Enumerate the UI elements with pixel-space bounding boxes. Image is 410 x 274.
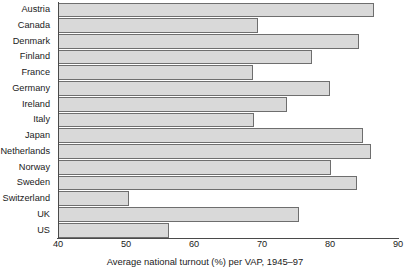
- category-label: Norway: [0, 159, 54, 175]
- bar-row: [59, 81, 398, 97]
- bar: [59, 81, 330, 96]
- category-label: Denmark: [0, 33, 54, 49]
- bar: [59, 50, 312, 65]
- bar-row: [59, 144, 398, 160]
- bar-row: [59, 175, 398, 191]
- bar-row: [59, 159, 398, 175]
- x-tick-label: 50: [121, 240, 131, 249]
- plot-area: [58, 2, 398, 238]
- bar-row: [59, 128, 398, 144]
- bar: [59, 176, 357, 191]
- bar: [59, 207, 299, 222]
- bar: [59, 113, 254, 128]
- category-label: Netherlands: [0, 144, 54, 160]
- bar: [59, 160, 331, 175]
- y-axis-category-labels: AustriaCanadaDenmarkFinlandFranceGermany…: [0, 2, 54, 238]
- bar-row: [59, 18, 398, 34]
- category-label: Finland: [0, 49, 54, 65]
- category-label: Ireland: [0, 96, 54, 112]
- bar: [59, 144, 371, 159]
- category-label: UK: [0, 207, 54, 223]
- category-label: Italy: [0, 112, 54, 128]
- bar-row: [59, 33, 398, 49]
- category-label: Austria: [0, 2, 54, 18]
- x-tick-label: 80: [325, 240, 335, 249]
- category-label: US: [0, 222, 54, 238]
- x-tick-label: 70: [257, 240, 267, 249]
- bar: [59, 128, 363, 143]
- bar-row: [59, 207, 398, 223]
- bar-row: [59, 2, 398, 18]
- bar-row: [59, 96, 398, 112]
- category-label: Switzerland: [0, 191, 54, 207]
- bar-chart: AustriaCanadaDenmarkFinlandFranceGermany…: [0, 0, 410, 274]
- bar-series: [59, 2, 398, 238]
- x-tick-label: 90: [393, 240, 403, 249]
- x-axis-tick-labels: 405060708090: [0, 240, 410, 254]
- x-tick-label: 60: [189, 240, 199, 249]
- x-tick-label: 40: [53, 240, 63, 249]
- x-axis-title: Average national turnout (%) per VAP, 19…: [0, 257, 410, 266]
- category-label: Germany: [0, 81, 54, 97]
- bar-row: [59, 222, 398, 238]
- category-label: Sweden: [0, 175, 54, 191]
- bar: [59, 65, 253, 80]
- category-label: Japan: [0, 128, 54, 144]
- bar: [59, 97, 287, 112]
- bar-row: [59, 65, 398, 81]
- category-label: Canada: [0, 18, 54, 34]
- bar-row: [59, 49, 398, 65]
- x-axis-line: [57, 238, 399, 239]
- bar-row: [59, 191, 398, 207]
- bar: [59, 34, 359, 49]
- bar: [59, 18, 258, 33]
- bar-row: [59, 112, 398, 128]
- bar: [59, 3, 374, 18]
- category-label: France: [0, 65, 54, 81]
- bar: [59, 223, 169, 238]
- bar: [59, 191, 129, 206]
